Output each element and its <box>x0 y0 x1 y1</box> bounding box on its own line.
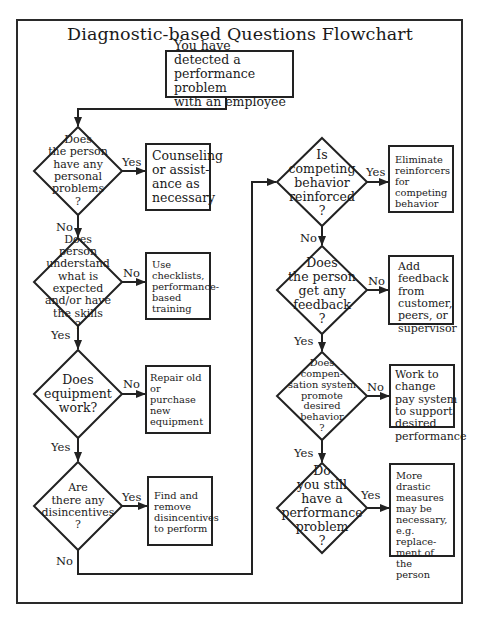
start-box: You have detected a performance problem … <box>165 50 294 98</box>
q6-yes-label: Yes <box>294 334 313 348</box>
q7-line: ? <box>288 423 356 434</box>
q3-yes-label: Yes <box>51 440 70 454</box>
q8-line: ? <box>281 534 362 548</box>
start-text-line: with an employee <box>174 95 287 109</box>
start-text-line: performance problem <box>174 67 287 95</box>
action-box-q8: More drastic measures may be necessary, … <box>389 463 455 557</box>
action-q3-line: Repair old or <box>150 373 204 395</box>
start-text-line: You have detected a <box>174 39 287 67</box>
q7-line: Does <box>288 358 356 369</box>
action-q2-line: training <box>152 304 219 315</box>
action-q6-line: supervisor <box>398 323 457 335</box>
q3-no-label: No <box>123 377 140 391</box>
q2-no-label: No <box>123 266 140 280</box>
action-q7-line: performance <box>395 431 467 443</box>
q5-line: Is <box>289 148 356 162</box>
q7-yes-label: Yes <box>294 446 313 460</box>
q4-line: Are <box>42 482 115 494</box>
action-box-q4: Find and remove disincentives to perform <box>147 476 213 546</box>
q5-line: competing <box>289 162 356 176</box>
q1-line: problems <box>48 183 108 195</box>
q6-line: Does <box>288 256 356 270</box>
action-box-q2: Use checklists, performance- based train… <box>145 252 211 320</box>
action-box-q1: Counseling or assist- ance as necessary <box>145 143 211 211</box>
q8-line: performance <box>281 506 362 520</box>
action-q1-line: necessary <box>152 191 223 205</box>
action-q8-line: e.g. replace- <box>396 526 448 548</box>
q8-line: problem <box>281 520 362 534</box>
decision-text-q2: Does person understand what is expected … <box>36 248 120 318</box>
q3-line: work? <box>44 401 112 415</box>
q5-line: behavior <box>289 176 356 190</box>
q7-no-label: No <box>367 380 384 394</box>
q2-line: ? <box>36 320 120 332</box>
q2-line: understand <box>36 258 120 270</box>
q8-line: you still <box>281 478 362 492</box>
action-box-q5: Eliminate reinforcers for competing beha… <box>388 145 454 213</box>
q4-no-label: No <box>56 554 73 568</box>
action-q8-line: person <box>396 570 448 581</box>
q2-line: what is expected <box>36 271 120 296</box>
q3-line: Does <box>44 373 112 387</box>
q4-line: ? <box>42 519 115 531</box>
action-box-q6: Add feedback from customer, peers, or su… <box>388 255 454 325</box>
q6-line: ? <box>288 312 356 326</box>
action-q1-line: Counseling <box>152 149 223 163</box>
decision-text-q5: Is competing behavior reinforced ? <box>286 152 358 214</box>
q6-line: feedback <box>288 298 356 312</box>
q8-line: have a <box>281 492 362 506</box>
q6-no-label: No <box>368 274 385 288</box>
q6-line: the person <box>288 270 356 284</box>
q2-line: and/or have <box>36 295 120 307</box>
q8-yes-label: Yes <box>361 488 380 502</box>
q2-yes-label: Yes <box>51 328 70 342</box>
q6-line: get any <box>288 284 356 298</box>
decision-text-q3: Does equipment work? <box>40 370 116 418</box>
decision-text-q1: Does the person have any personal proble… <box>44 140 112 202</box>
q1-no-label: No <box>56 220 73 234</box>
q7-line: compen- <box>288 369 356 380</box>
q5-line: reinforced <box>289 190 356 204</box>
q5-no-label: No <box>300 231 317 245</box>
decision-text-q4: Are there any disincentives ? <box>40 484 116 530</box>
action-q7-line: change <box>395 381 467 393</box>
action-box-q3: Repair old or purchase new equipment <box>145 365 211 434</box>
decision-text-q8: Do you still have a performance problem … <box>284 473 360 539</box>
decision-text-q7: Does compen- sation system promote desir… <box>282 362 362 430</box>
q7-line: sation system <box>288 380 356 391</box>
q3-line: equipment <box>44 387 112 401</box>
q4-yes-label: Yes <box>122 490 141 504</box>
decision-text-q6: Does the person get any feedback ? <box>286 260 358 322</box>
q1-line: the person <box>48 146 108 158</box>
q8-line: Do <box>281 464 362 478</box>
action-q6-line: peers, or <box>398 310 457 322</box>
action-q5-line: behavior <box>395 199 450 210</box>
action-q7-line: desired <box>395 418 467 430</box>
q5-yes-label: Yes <box>366 165 385 179</box>
q1-line: ? <box>48 196 108 208</box>
q5-line: ? <box>289 204 356 218</box>
q1-yes-label: Yes <box>122 155 141 169</box>
action-box-q7: Work to change pay system to support des… <box>389 364 455 428</box>
action-q3-line: equipment <box>150 417 204 428</box>
action-q1-line: ance as <box>152 177 223 191</box>
action-q8-line: ment of the <box>396 548 448 570</box>
action-q6-line: feedback <box>398 273 457 285</box>
action-q1-line: or assist- <box>152 163 223 177</box>
action-q4-line: to perform <box>154 524 219 535</box>
